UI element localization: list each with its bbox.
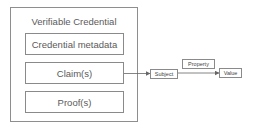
subject-node: Subject bbox=[150, 69, 178, 79]
value-node: Value bbox=[219, 68, 242, 78]
connector-lines bbox=[0, 0, 254, 132]
property-label: Property bbox=[182, 59, 215, 69]
